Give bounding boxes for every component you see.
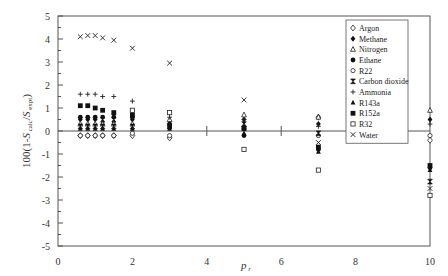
legend-label: Argon <box>359 24 379 33</box>
legend-label: Water <box>359 131 378 140</box>
legend-label: Carbon dioxide <box>359 77 409 86</box>
legend-label: R152a <box>359 109 380 118</box>
x-tick-label: 10 <box>425 256 435 267</box>
y-tick-label: 3 <box>45 57 50 68</box>
legend-label: Methane <box>359 35 387 44</box>
y-tick-label: 1 <box>45 103 50 114</box>
legend-label: Ammonia <box>359 88 391 97</box>
x-tick-label: 2 <box>130 256 135 267</box>
legend: ArgonMethaneNitrogenEthaneR22Carbon diox… <box>346 20 409 143</box>
y-tick-label: 0 <box>45 126 50 137</box>
legend-label: Ethane <box>359 56 382 65</box>
y-tick-label: 5 <box>45 11 50 22</box>
scatter-chart: -5-4-3-2-1012345 0246810 ArgonMethaneNit… <box>0 0 448 276</box>
y-tick-label: -3 <box>42 195 50 206</box>
y-axis-title: 100(1-S calc/S expt) <box>20 94 34 168</box>
x-tick-label: 4 <box>204 256 209 267</box>
y-tick-label: 2 <box>45 80 50 91</box>
y-axis: -5-4-3-2-1012345 <box>42 11 63 252</box>
y-tick-label: 4 <box>45 34 50 45</box>
y-tick-label: -5 <box>42 241 50 252</box>
legend-label: Nitrogen <box>359 45 387 54</box>
y-tick-label: -4 <box>42 218 50 229</box>
y-tick-label: -2 <box>42 172 50 183</box>
x-tick-label: 8 <box>353 256 358 267</box>
legend-label: R143a <box>359 99 380 108</box>
y-tick-label: -1 <box>42 149 50 160</box>
x-tick-label: 6 <box>279 256 284 267</box>
x-tick-label: 0 <box>56 256 61 267</box>
x-axis-title: p r <box>240 259 251 273</box>
legend-label: R22 <box>359 67 372 76</box>
legend-label: R32 <box>359 120 372 129</box>
legend-item: Carbon dioxide <box>351 77 409 86</box>
